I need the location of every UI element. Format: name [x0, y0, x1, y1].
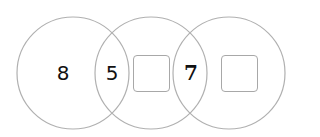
circle3-answer-box[interactable] [221, 55, 258, 92]
overlap-2-3-label: 7 [184, 61, 198, 85]
circle2-answer-box[interactable] [133, 55, 170, 92]
overlap-1-2-label: 5 [106, 61, 119, 85]
circle1-only-label: 8 [57, 61, 70, 85]
